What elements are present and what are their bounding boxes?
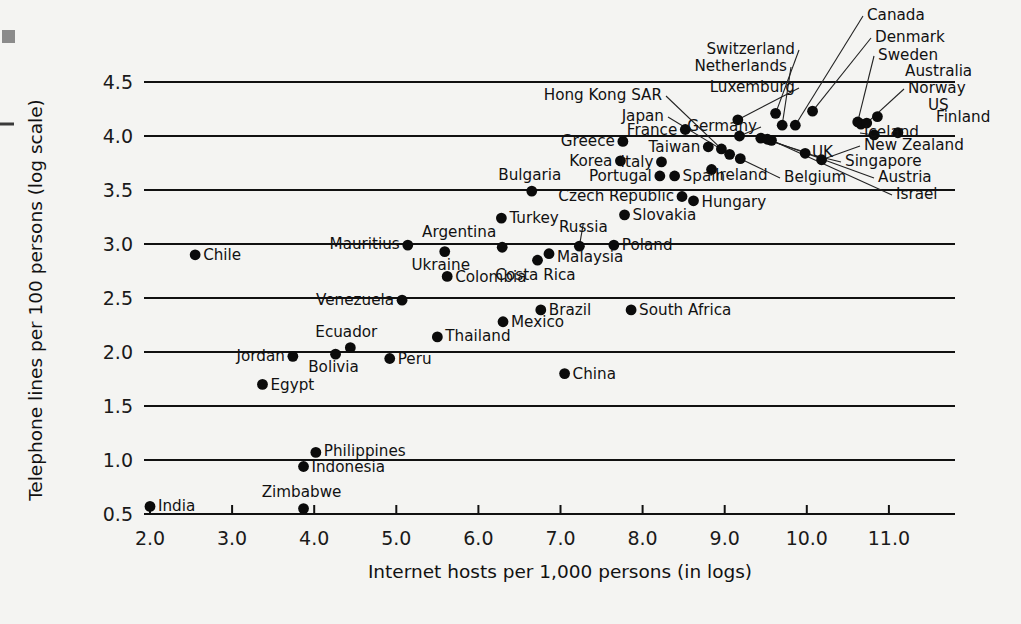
point-label-china: China	[573, 365, 616, 383]
y-tick-label-3.0: 3.0	[103, 233, 133, 255]
x-tick-label-8.0: 8.0	[627, 527, 657, 549]
data-point	[432, 331, 443, 342]
point-label-turkey: Turkey	[508, 209, 558, 227]
point-label-ecuador: Ecuador	[315, 323, 378, 341]
point-label-finland: Finland	[936, 108, 990, 126]
data-point	[384, 353, 395, 364]
point-label-bulgaria: Bulgaria	[498, 166, 561, 184]
point-label-jordan: Jordan	[236, 347, 285, 365]
data-point	[703, 141, 714, 152]
point-label-mauritius: Mauritius	[330, 235, 400, 253]
data-point	[688, 195, 699, 206]
data-point	[310, 447, 321, 458]
data-point	[497, 242, 508, 253]
point-label-south-africa: South Africa	[639, 301, 731, 319]
point-label-chile: Chile	[203, 246, 241, 264]
point-label-iceland: Iceland	[864, 123, 919, 141]
point-label-zimbabwe: Zimbabwe	[262, 483, 342, 501]
point-label-venezuela: Venezuela	[316, 291, 394, 309]
y-tick-label-1.0: 1.0	[103, 449, 133, 471]
data-point	[626, 304, 637, 315]
point-label-costa-rica: Costa Rica	[495, 266, 575, 284]
x-tick-label-5.0: 5.0	[381, 527, 411, 549]
point-label-singapore: Singapore	[845, 152, 922, 170]
data-point	[777, 120, 788, 131]
point-label-australia: Australia	[905, 62, 972, 80]
point-label-hong-kong-sar: Hong Kong SAR	[544, 86, 663, 104]
x-tick-label-4.0: 4.0	[299, 527, 329, 549]
data-point	[498, 316, 509, 327]
data-point	[496, 213, 507, 224]
point-label-uk: UK	[812, 143, 834, 161]
point-label-thailand: Thailand	[444, 327, 510, 345]
data-point	[669, 171, 680, 182]
point-label-bolivia: Bolivia	[308, 358, 359, 376]
corner-marker-icon	[2, 30, 15, 43]
y-tick-label-group: 0.51.01.52.02.53.03.54.04.5	[103, 71, 133, 525]
point-label-taiwan: Taiwan	[648, 138, 701, 156]
data-point	[402, 240, 413, 251]
point-label-greece: Greece	[561, 132, 615, 150]
x-tick-label-9.0: 9.0	[710, 527, 740, 549]
y-tick-label-0.5: 0.5	[103, 503, 133, 525]
data-point	[735, 153, 746, 164]
point-label-poland: Poland	[622, 236, 673, 254]
y-tick-label-2.0: 2.0	[103, 341, 133, 363]
data-point	[872, 111, 883, 122]
point-label-denmark: Denmark	[875, 28, 945, 46]
data-point	[790, 120, 801, 131]
point-label-israel: Israel	[896, 185, 938, 203]
x-axis-title: Internet hosts per 1,000 persons (in log…	[368, 561, 752, 582]
point-label-japan: Japan	[621, 107, 664, 125]
x-tick-label-6.0: 6.0	[463, 527, 493, 549]
y-tick-label-1.5: 1.5	[103, 395, 133, 417]
point-label-philippines: Philippines	[324, 442, 406, 460]
data-point	[526, 186, 537, 197]
point-label-norway: Norway	[908, 79, 966, 97]
point-label-czech-republic: Czech Republic	[558, 187, 674, 205]
point-label-india: India	[158, 497, 195, 515]
point-label-indonesia: Indonesia	[312, 458, 385, 476]
data-point	[654, 171, 665, 182]
point-label-belgium: Belgium	[784, 168, 846, 186]
y-axis-title: Telephone lines per 100 persons (log sca…	[25, 99, 46, 502]
point-label-peru: Peru	[398, 350, 432, 368]
data-point	[544, 248, 555, 259]
scatter-plot-svg: 2.03.04.05.06.07.08.09.010.011.0 0.51.01…	[0, 0, 1021, 624]
point-label-argentina: Argentina	[422, 223, 496, 241]
point-label-russia: Russia	[559, 218, 608, 236]
y-tick-label-4.5: 4.5	[103, 71, 133, 93]
data-point	[800, 148, 811, 159]
scatter-chart-figure: 2.03.04.05.06.07.08.09.010.011.0 0.51.01…	[0, 0, 1021, 624]
data-point	[345, 342, 356, 353]
y-tick-label-4.0: 4.0	[103, 125, 133, 147]
data-point	[532, 255, 543, 266]
data-point	[770, 108, 781, 119]
y-tick-label-2.5: 2.5	[103, 287, 133, 309]
point-label-brazil: Brazil	[549, 301, 591, 319]
data-point	[619, 209, 630, 220]
x-tick-label-11.0: 11.0	[868, 527, 910, 549]
point-label-austria: Austria	[878, 168, 932, 186]
x-tick-label-7.0: 7.0	[545, 527, 575, 549]
point-label-switzerland: Switzerland	[706, 40, 795, 58]
data-point	[724, 149, 735, 160]
data-point	[677, 191, 688, 202]
x-tick-label-2.0: 2.0	[135, 527, 165, 549]
data-point	[656, 157, 667, 168]
point-label-luxemburg: Luxemburg	[710, 78, 795, 96]
point-label-malaysia: Malaysia	[557, 248, 623, 266]
data-point	[298, 503, 309, 514]
data-point	[190, 249, 201, 260]
point-label-portugal: Portugal	[589, 167, 652, 185]
data-point	[766, 135, 777, 146]
data-point	[397, 295, 408, 306]
data-point	[559, 368, 570, 379]
data-point	[287, 351, 298, 362]
point-label-canada: Canada	[867, 6, 925, 24]
point-label-egypt: Egypt	[270, 376, 314, 394]
point-label-slovakia: Slovakia	[633, 206, 697, 224]
x-tick-label-10.0: 10.0	[786, 527, 828, 549]
point-label-netherlands: Netherlands	[694, 57, 787, 75]
x-tick-label-3.0: 3.0	[217, 527, 247, 549]
